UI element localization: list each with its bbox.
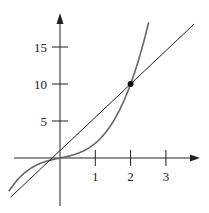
x-tick-label: 1 — [92, 169, 99, 184]
x-tick-label: 2 — [127, 169, 134, 184]
plot: 12351015 — [0, 0, 209, 213]
curve-series — [9, 22, 149, 191]
y-tick-label: 5 — [41, 114, 48, 129]
chart: 12351015 — [0, 0, 209, 213]
y-tick-label: 15 — [34, 40, 47, 55]
y-tick-label: 10 — [34, 77, 47, 92]
x-tick-label: 3 — [163, 169, 170, 184]
intersection-point — [128, 81, 134, 87]
x-axis-arrow-icon — [190, 155, 200, 162]
y-axis-arrow-icon — [57, 13, 64, 24]
